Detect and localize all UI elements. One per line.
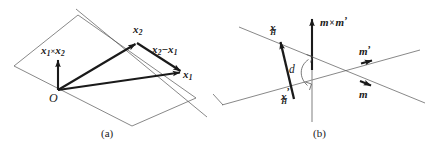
prime-mark-icon-m: ’ [344, 15, 347, 26]
figure-root: x1×x2 x2 x2−x1 x1 O (a) [0, 0, 425, 149]
label-x-h-stack: xH [270, 22, 276, 33]
diagram-panel-a: x1×x2 x2 x2−x1 x1 O (a) [0, 0, 213, 149]
vector-x2-arrow [58, 44, 136, 90]
label-x2-base: x [133, 23, 139, 35]
label-m-cross-m-prime: m×m’ [320, 16, 347, 29]
prime-mark-icon-mp: ’ [368, 44, 371, 55]
label-cross-product: x1×x2 [41, 45, 65, 58]
label-x-h: xH [270, 22, 276, 33]
caption-panel-b: (b) [313, 128, 326, 139]
cross-operator-icon-b: × [329, 18, 336, 28]
label-difference-base2: x [168, 43, 174, 55]
label-x-h-prime: x’H [281, 91, 287, 102]
label-difference-sub2: 1 [174, 48, 178, 57]
arrowhead-m-prime [361, 61, 372, 64]
label-m: m [359, 89, 368, 100]
label-x1-base: x [183, 68, 189, 80]
label-m-prime: m’ [359, 45, 371, 57]
label-x2-sub: 2 [139, 28, 143, 37]
diagram-panel-b: xH x’H m×m’ m’ m d (b) [213, 0, 425, 149]
label-cross-product-base1: x [41, 44, 47, 56]
label-x-h-sub: H [270, 29, 276, 37]
label-difference: x2−x1 [152, 44, 178, 57]
vector-x1-arrow [58, 73, 180, 91]
line-m [222, 50, 420, 105]
label-m-cross-base2: m [336, 16, 345, 28]
label-x1-sub: 1 [189, 73, 193, 82]
label-cross-product-base2: x [55, 44, 61, 56]
label-x-h-prime-stack: x’H [281, 91, 287, 102]
label-x-h-prime-sub: H [281, 98, 287, 106]
label-m-cross-base1: m [320, 16, 329, 28]
label-origin: O [49, 92, 58, 104]
plane-parallelogram [14, 15, 196, 126]
label-distance: d [289, 64, 295, 76]
label-x2: x2 [133, 24, 142, 37]
label-difference-base1: x [152, 43, 158, 55]
label-m-prime-base: m [359, 45, 368, 57]
prime-mark-icon: ’ [287, 87, 290, 97]
caption-panel-a: (a) [101, 128, 113, 139]
label-cross-product-sub2: 2 [61, 49, 65, 58]
arrowhead-m [360, 81, 371, 86]
label-x1: x1 [183, 69, 192, 82]
label-m-base: m [359, 88, 368, 100]
edge-fragment-line [213, 94, 223, 105]
right-angle-marker-lower [306, 82, 312, 90]
line-m-prime [239, 27, 425, 103]
